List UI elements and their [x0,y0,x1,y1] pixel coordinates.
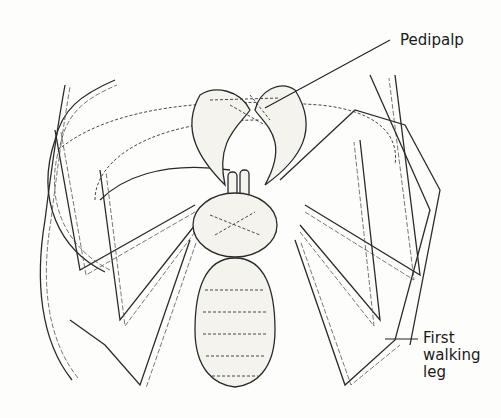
label-line-2: walking [423,347,481,364]
leg-left-3 [100,170,195,320]
leg-right-3 [300,140,380,320]
leg-left-2 [55,130,195,270]
leg-left-whip [100,167,230,200]
label-line-1: First [423,330,481,347]
first-walking-leg-left-outer [48,80,115,272]
label-line-3: leg [423,364,481,381]
leg-left-a [40,85,72,380]
abdomen [195,258,275,387]
pedipalp-label: Pedipalp [400,32,464,49]
leg-right-2 [305,75,420,275]
first-walking-leg-label: First walking leg [423,330,481,381]
pedipalp-right [255,86,306,185]
figure-canvas: Pedipalp First walking leg [0,0,501,418]
pedipalp-leader-line [265,40,390,108]
